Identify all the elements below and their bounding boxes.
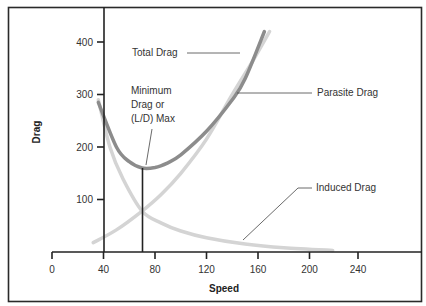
total-drag-curve bbox=[98, 32, 264, 169]
y-tick-200: 200 bbox=[76, 142, 93, 153]
svg-text:Minimum: Minimum bbox=[131, 85, 172, 96]
induced-drag-label: Induced Drag bbox=[316, 182, 376, 193]
parasite-drag-curve bbox=[93, 32, 269, 243]
min-drag-label: Minimum Drag or (L/D) Max bbox=[131, 85, 175, 124]
y-ticks: 400 300 200 100 bbox=[76, 37, 104, 206]
drag-chart: 400 300 200 100 Drag 0 40 80 120 160 200… bbox=[0, 0, 426, 306]
x-tick-160: 160 bbox=[250, 264, 267, 275]
y-tick-100: 100 bbox=[76, 194, 93, 205]
svg-text:Drag or: Drag or bbox=[131, 99, 165, 110]
x-tick-120: 120 bbox=[198, 264, 215, 275]
y-axis-title: Drag bbox=[31, 121, 42, 144]
svg-text:(L/D) Max: (L/D) Max bbox=[131, 113, 175, 124]
y-tick-400: 400 bbox=[76, 37, 93, 48]
y-tick-300: 300 bbox=[76, 89, 93, 100]
total-drag-label: Total Drag bbox=[132, 47, 178, 58]
min-drag-leader bbox=[146, 129, 152, 165]
x-tick-0: 0 bbox=[49, 264, 55, 275]
x-tick-240: 240 bbox=[350, 264, 367, 275]
chart-frame bbox=[9, 8, 422, 302]
parasite-drag-label: Parasite Drag bbox=[317, 87, 378, 98]
x-axis-title: Speed bbox=[209, 283, 239, 294]
x-tick-80: 80 bbox=[149, 264, 161, 275]
induced-drag-leader bbox=[243, 188, 312, 240]
x-tick-40: 40 bbox=[98, 264, 110, 275]
curves bbox=[93, 32, 333, 251]
x-tick-200: 200 bbox=[301, 264, 318, 275]
x-ticks: 0 40 80 120 160 200 240 bbox=[49, 252, 367, 275]
